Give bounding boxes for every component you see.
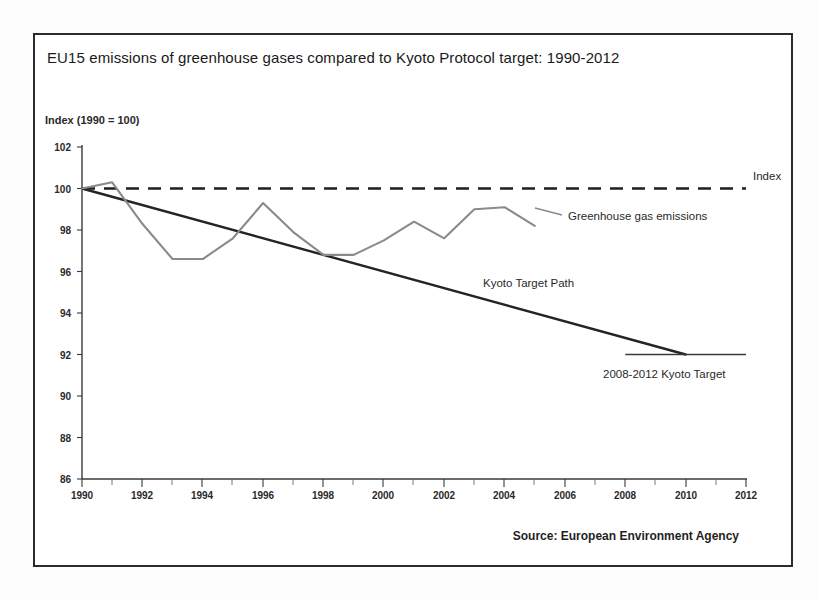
annotation-target-path: Kyoto Target Path xyxy=(483,277,574,289)
annotation-kyoto-target: 2008-2012 Kyoto Target xyxy=(603,368,726,380)
x-tick-label: 2004 xyxy=(493,490,516,501)
x-tick-label: 2010 xyxy=(675,490,698,501)
x-tick-label: 1996 xyxy=(252,490,275,501)
y-tick-label: 102 xyxy=(54,142,71,153)
emissions-label-leader xyxy=(535,208,562,215)
y-axis-tick-labels: 102 100 98 96 94 92 90 88 86 xyxy=(54,142,71,485)
y-tick-label: 92 xyxy=(60,350,72,361)
annotation-emissions: Greenhouse gas emissions xyxy=(568,210,708,222)
y-axis-ticks xyxy=(77,147,82,479)
source-note: Source: European Environment Agency xyxy=(513,529,739,543)
x-axis-ticks xyxy=(82,479,746,487)
x-tick-label: 2012 xyxy=(735,490,758,501)
x-tick-label: 2006 xyxy=(554,490,577,501)
y-tick-label: 94 xyxy=(60,308,72,319)
x-tick-label: 1990 xyxy=(71,490,94,501)
chart-plot: 102 100 98 96 94 92 90 88 86 xyxy=(35,35,795,569)
x-tick-label: 2008 xyxy=(614,490,637,501)
y-tick-label: 100 xyxy=(54,184,71,195)
y-tick-label: 88 xyxy=(60,433,72,444)
y-tick-label: 90 xyxy=(60,391,72,402)
x-tick-label: 2000 xyxy=(372,490,395,501)
chart-frame: EU15 emissions of greenhouse gases compa… xyxy=(33,33,793,567)
annotation-index: Index xyxy=(753,170,781,182)
y-tick-label: 98 xyxy=(60,225,72,236)
x-axis-tick-labels: 1990 1992 1994 1996 1998 2000 2002 2004 … xyxy=(71,490,758,501)
y-tick-label: 86 xyxy=(60,474,72,485)
x-tick-label: 2002 xyxy=(433,490,456,501)
y-tick-label: 96 xyxy=(60,267,72,278)
x-tick-label: 1992 xyxy=(131,490,154,501)
page-background: EU15 emissions of greenhouse gases compa… xyxy=(0,0,818,601)
x-tick-label: 1998 xyxy=(312,490,335,501)
series-line-emissions xyxy=(82,182,535,259)
x-tick-label: 1994 xyxy=(191,490,214,501)
